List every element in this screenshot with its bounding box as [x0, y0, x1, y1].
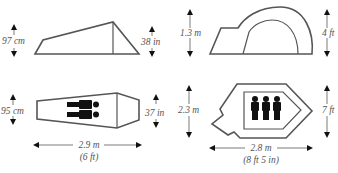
tent2-height-imperial: 4 ft	[322, 28, 335, 38]
tent2-side-view: 1.3 m 4 ft	[180, 7, 335, 57]
person-icon	[251, 96, 259, 120]
tent2-length-metric: 2.8 m	[250, 143, 271, 153]
tent1-width-metric: 95 cm	[1, 106, 24, 116]
person-icon	[273, 96, 281, 120]
person-icon	[262, 96, 270, 120]
tent2-height-metric: 1.3 m	[180, 28, 201, 38]
tent2-floor-plan: 2.3 m 7 ft	[178, 84, 335, 166]
tent1-height-metric: 97 cm	[2, 36, 25, 46]
tent2-width-imperial: 7 ft	[322, 105, 335, 115]
tent2-length-imperial: (8 ft 5 in)	[243, 155, 279, 166]
tent1-length-metric: 2.9 m	[78, 140, 99, 150]
tent2-dome-outline	[210, 7, 312, 54]
tent1-floor-plan: 95 cm 37 in 2.9 m (6 ft)	[1, 93, 165, 163]
tent1-length-imperial: (6 ft)	[80, 152, 99, 163]
tent1-width-imperial: 37 in	[144, 108, 165, 118]
tent1-side-view: 97 cm 38 in	[2, 22, 161, 57]
tent-diagrams: 97 cm 38 in 95 cm	[0, 0, 338, 173]
tent1-height-imperial: 38 in	[140, 37, 161, 47]
tent2-width-metric: 2.3 m	[178, 105, 199, 115]
tent1-side-outline	[35, 22, 139, 54]
